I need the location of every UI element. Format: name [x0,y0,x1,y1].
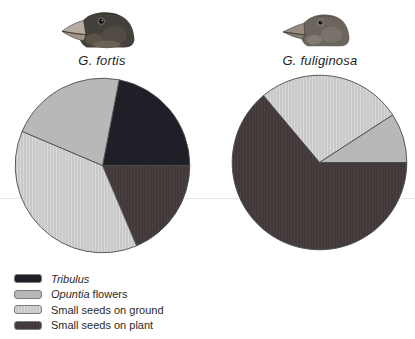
g-fortis-head-image [60,9,138,49]
legend-item-tribulus: Tribulus [14,271,164,287]
legend-item-small-seeds-on-plant: Small seeds on plant [14,318,164,334]
legend-label-small-seeds-on-plant: Small seeds on plant [51,319,153,331]
legend: Tribulus Opuntia flowers Small seeds on … [14,271,164,333]
species-title-g-fortis: G. fortis [27,53,177,68]
legend-swatch-small-seeds-on-ground [14,305,42,314]
pie-chart-g-fortis [14,77,191,254]
legend-label-opuntia-flowers: Opuntia flowers [51,288,127,300]
g-fuliginosa-head-image [281,10,353,48]
legend-swatch-small-seeds-on-plant [14,321,42,330]
legend-swatch-tribulus [14,274,42,283]
legend-label-small-seeds-on-ground: Small seeds on ground [51,304,164,316]
legend-swatch-opuntia-flowers [14,290,42,299]
legend-item-opuntia-flowers: Opuntia flowers [14,287,164,303]
figure-diet-pie-charts: G. fortis G. fuliginosa Tribulus Opuntia… [0,0,415,339]
legend-label-tribulus: Tribulus [51,273,89,285]
pie-chart-g-fuliginosa [231,74,408,251]
legend-item-small-seeds-on-ground: Small seeds on ground [14,302,164,318]
species-title-g-fuliginosa: G. fuliginosa [245,53,395,68]
